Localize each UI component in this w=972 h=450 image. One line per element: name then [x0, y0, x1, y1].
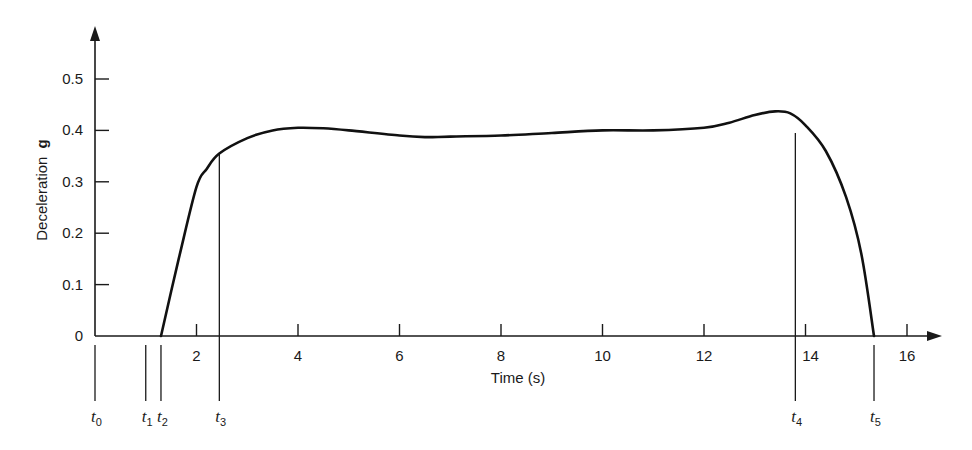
y-tick-label: 0.5	[62, 70, 83, 87]
time-marker-label-3: t3	[215, 407, 226, 428]
y-axis-title-text: Deceleration	[33, 157, 50, 241]
deceleration-chart: 00.10.20.30.40.5 246810121416 t0t1t2t3t4…	[0, 0, 972, 450]
x-tick-label: 6	[395, 347, 403, 364]
x-ticks: 246810121416	[192, 324, 915, 364]
x-tick-label: 10	[594, 347, 611, 364]
y-axis-title: Deceleration g	[33, 139, 50, 241]
deceleration-curve	[161, 111, 874, 336]
x-tick-label: 4	[294, 347, 302, 364]
y-axis-title-unit: g	[33, 139, 50, 148]
time-marker-label-2: t2	[157, 407, 168, 428]
y-axis-arrow-icon	[90, 26, 100, 41]
time-markers: t0t1t2t3t4t5	[91, 133, 881, 428]
x-tick-label: 8	[497, 347, 505, 364]
time-marker-label-1: t1	[142, 407, 153, 428]
y-tick-label: 0.3	[62, 173, 83, 190]
time-marker-label-5: t5	[870, 407, 881, 428]
axes	[90, 26, 942, 341]
x-tick-label: 12	[696, 347, 713, 364]
y-tick-label: 0	[75, 327, 83, 344]
y-tick-label: 0.4	[62, 121, 83, 138]
y-tick-label: 0.2	[62, 224, 83, 241]
time-marker-label-0: t0	[91, 407, 102, 428]
x-tick-label: 14	[802, 347, 819, 364]
x-axis-arrow-icon	[927, 331, 942, 341]
x-axis-title: Time (s)	[491, 369, 545, 386]
time-marker-label-4: t4	[791, 407, 802, 428]
x-tick-label: 16	[899, 347, 916, 364]
y-ticks: 00.10.20.30.40.5	[62, 70, 109, 344]
y-tick-label: 0.1	[62, 276, 83, 293]
x-tick-label: 2	[192, 347, 200, 364]
